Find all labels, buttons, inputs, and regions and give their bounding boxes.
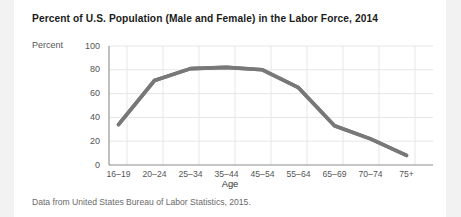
y-tick-60: 60: [74, 89, 100, 98]
source-note: Data from United States Bureau of Labor …: [32, 197, 251, 207]
y-tick-20: 20: [74, 137, 100, 146]
data-series-line: [119, 67, 407, 155]
y-tick-80: 80: [74, 65, 100, 74]
data-series-line-overlay: [119, 67, 407, 155]
y-tick-0: 0: [74, 161, 100, 170]
chart-plot-area: Percent: [14, 0, 446, 217]
x-axis-title: Age: [14, 178, 446, 189]
y-tick-100: 100: [74, 42, 100, 51]
y-tick-40: 40: [74, 113, 100, 122]
figure-card: Percent of U.S. Population (Male and Fem…: [14, 0, 446, 217]
